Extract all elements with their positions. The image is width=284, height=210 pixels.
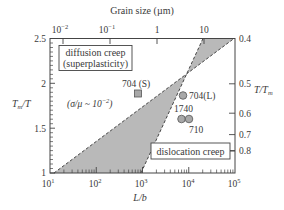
y-tick-2.5: 2.5 bbox=[34, 34, 46, 44]
y-tick-1: 1 bbox=[41, 168, 46, 178]
top-axis-title: Grain size (µm) bbox=[110, 5, 174, 17]
y-tick-2: 2 bbox=[41, 79, 46, 89]
y2-axis-title: T/Tm bbox=[254, 84, 273, 96]
point-1740-circle bbox=[178, 115, 186, 123]
point-704s-square bbox=[135, 90, 142, 97]
superplasticity-label: (superplasticity) bbox=[63, 58, 128, 70]
y2-tick-0.8: 0.8 bbox=[239, 146, 251, 156]
x2-tick-0.01: 10−2 bbox=[52, 23, 68, 35]
point-710-circle bbox=[185, 115, 193, 123]
y-tick-1.5: 1.5 bbox=[34, 124, 46, 134]
x2-tick-1: 1 bbox=[155, 25, 160, 35]
creep-mechanism-chart: Grain size (µm) bbox=[0, 0, 284, 210]
y2-tick-0.6: 0.6 bbox=[239, 109, 251, 119]
y2-tick-0.5: 0.5 bbox=[239, 79, 251, 89]
diffusion-creep-label: diffusion creep bbox=[65, 47, 125, 58]
y2-tick-0.7: 0.7 bbox=[239, 130, 251, 140]
x2-tick-10: 10 bbox=[199, 25, 209, 35]
top-axis-ticks bbox=[63, 39, 204, 45]
stress-annotation: (σ/μ ~ 10−2) bbox=[67, 97, 112, 110]
point-label-1740: 1740 bbox=[174, 104, 193, 114]
x-tick-10e4: 104 bbox=[182, 177, 196, 189]
x2-tick-0.1: 10−1 bbox=[99, 23, 115, 35]
point-label-710: 710 bbox=[189, 125, 204, 135]
y2-tick-0.4: 0.4 bbox=[239, 34, 251, 44]
x-axis-title: L/b bbox=[132, 192, 146, 203]
x-tick-10e2: 102 bbox=[89, 177, 102, 189]
dislocation-creep-label: dislocation creep bbox=[156, 146, 224, 157]
left-axis-ticks bbox=[50, 39, 55, 174]
point-704l-circle bbox=[179, 92, 187, 100]
x-tick-10e1: 101 bbox=[42, 177, 55, 189]
y-axis-title: Tm/T bbox=[12, 98, 32, 110]
x-tick-10e5: 105 bbox=[228, 177, 241, 189]
x-tick-10e3: 103 bbox=[135, 177, 148, 189]
point-label-704s: 704 (S) bbox=[122, 79, 150, 90]
point-label-704l: 704(L) bbox=[189, 91, 215, 102]
right-axis-ticks bbox=[229, 84, 235, 151]
